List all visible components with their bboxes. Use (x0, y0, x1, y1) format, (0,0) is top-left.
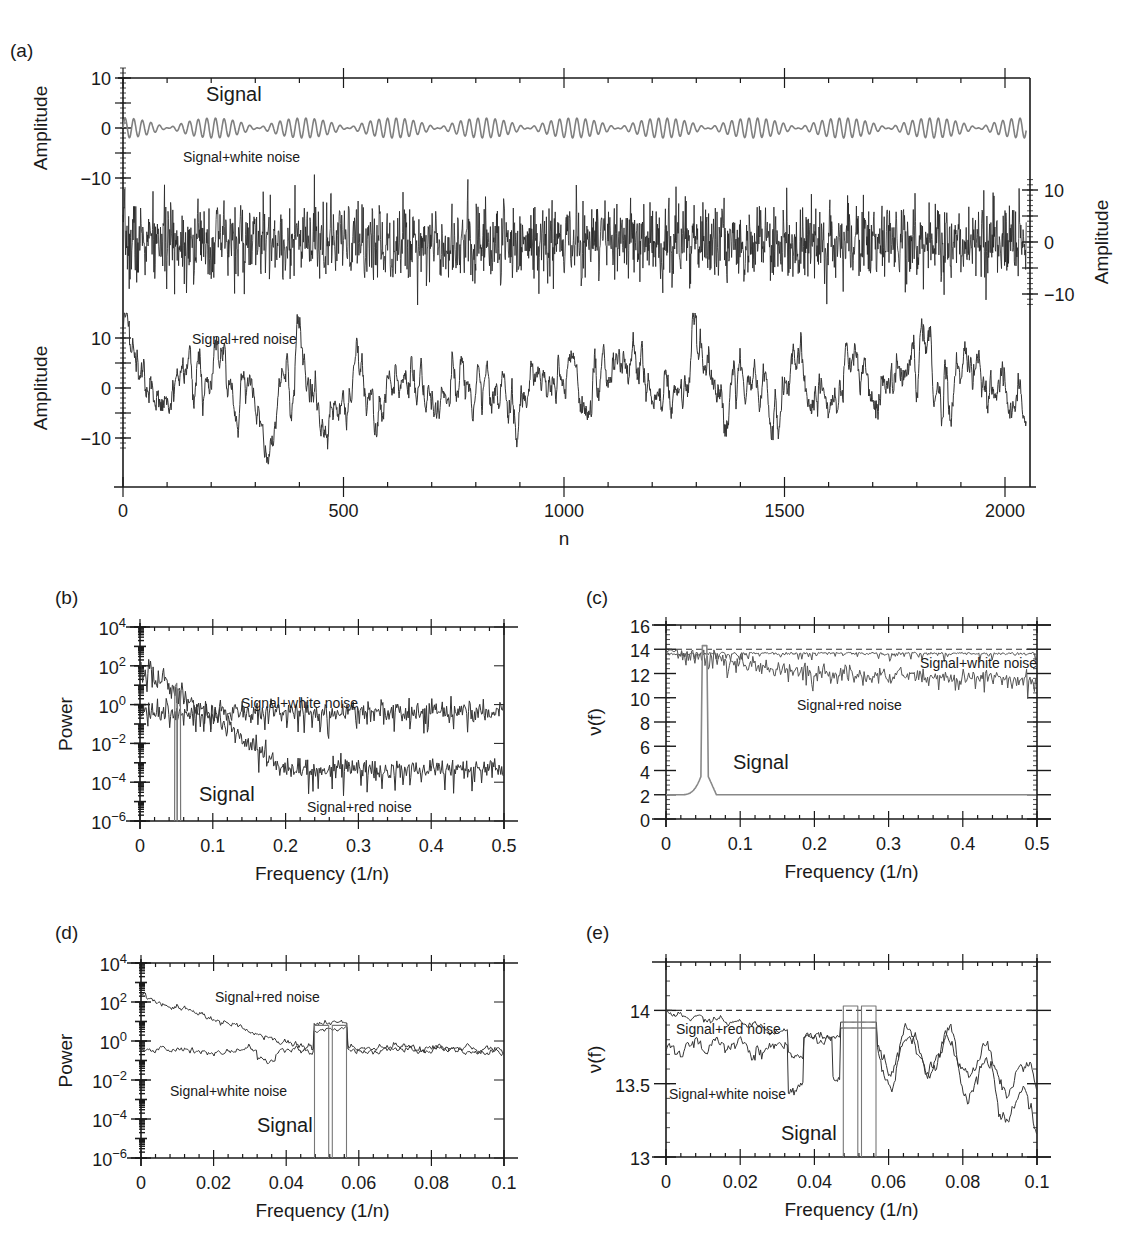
x-tick-label: 0 (118, 501, 128, 521)
signal-white-noise-nu (666, 1023, 1037, 1134)
y-tick-label: 13.5 (615, 1076, 650, 1096)
x-axis-title: n (559, 528, 570, 549)
y-tick-label: 0 (101, 119, 111, 139)
x-tick-label: 0.2 (273, 836, 298, 856)
y-axis-title: Power (55, 1033, 76, 1088)
annotation-signal-red-noise: Signal+red noise (307, 799, 412, 815)
panel-b-label: (b) (55, 587, 78, 608)
panel-c-nu-spectrum: (c)00.10.20.30.40.5Frequency (1/n)024681… (584, 587, 1051, 882)
y-tick-label: 8 (640, 714, 650, 734)
signal-band-1 (315, 1025, 329, 1158)
y-tick-label: 14 (630, 641, 650, 661)
signal-red-noise-spectrum (140, 659, 503, 795)
annotation-signal: Signal (257, 1114, 313, 1136)
y-tick-label: 0 (640, 811, 650, 831)
x-tick-label: 0 (661, 834, 671, 854)
y-tick-label: 13 (630, 1149, 650, 1169)
panel-b-power-spectrum: (b)00.10.20.30.40.5Frequency (1/n)104102… (55, 587, 518, 884)
y-tick-label: 102 (100, 990, 127, 1014)
y-tick-label: 104 (100, 951, 127, 975)
y-tick-label: 16 (630, 617, 650, 637)
annotation-signal-red-noise: Signal+red noise (215, 989, 320, 1005)
y-axis-title: Power (55, 696, 76, 751)
y-tick-label: 100 (100, 1029, 127, 1053)
annotation-signal: Signal (733, 751, 789, 773)
y-tick-label: −10 (80, 429, 111, 449)
x-tick-label: 0.5 (1024, 834, 1049, 854)
x-tick-label: 0.06 (871, 1172, 906, 1192)
x-tick-label: 0.08 (945, 1172, 980, 1192)
annotation-signal-white-noise: Signal+white noise (241, 695, 358, 711)
x-tick-label: 1000 (544, 501, 584, 521)
annotation-signal-red-noise: Signal+red noise (676, 1021, 781, 1037)
annotation-signal-white-noise: Signal+white noise (669, 1086, 786, 1102)
x-tick-label: 1500 (764, 501, 804, 521)
y-tick-label: 10−2 (91, 731, 126, 755)
annotation-signal: Signal (781, 1122, 837, 1144)
y-tick-label: 10 (91, 69, 111, 89)
y-tick-label: 10 (91, 329, 111, 349)
y-axis-title: ν(f) (584, 1046, 605, 1073)
x-tick-label: 0.02 (723, 1172, 758, 1192)
y-axis-title-left-bottom: Amplitude (30, 346, 51, 431)
annotation-signal-white-noise: Signal+white noise (920, 655, 1037, 671)
x-axis-title: Frequency (1/n) (255, 1200, 389, 1221)
panel-a-label: (a) (10, 40, 33, 61)
panel-e-nu-spectrum-zoom: (e)00.020.040.060.080.1Frequency (1/n)13… (584, 922, 1051, 1220)
signal-white-noise-spectrum (141, 1027, 504, 1064)
panel-d-power-spectrum-zoom: (d)00.020.040.060.080.1Frequency (1/n)10… (55, 922, 518, 1221)
x-tick-label: 0.4 (419, 836, 444, 856)
x-tick-label: 0 (661, 1172, 671, 1192)
y-axis-title-left-top: Amplitude (30, 86, 51, 171)
y-tick-label: 100 (99, 693, 126, 717)
x-tick-label: 500 (328, 501, 358, 521)
x-tick-label: 2000 (985, 501, 1025, 521)
y-tick-label: 0 (101, 379, 111, 399)
y-tick-label: 4 (640, 763, 650, 783)
y-tick-label: 14 (630, 1002, 650, 1022)
annotation-signal-white-noise: Signal+white noise (170, 1083, 287, 1099)
signal-band-2 (862, 1006, 877, 1157)
x-tick-label: 0.5 (491, 836, 516, 856)
y-tick-label: 0 (1044, 233, 1054, 253)
x-axis-title: Frequency (1/n) (784, 1199, 918, 1220)
x-tick-label: 0.4 (950, 834, 975, 854)
x-tick-label: 0.02 (196, 1173, 231, 1193)
y-tick-label: 10−4 (92, 1107, 127, 1131)
x-tick-label: 0.3 (876, 834, 901, 854)
x-tick-label: 0.3 (346, 836, 371, 856)
x-tick-label: 0.1 (1024, 1172, 1049, 1192)
signal-band-2 (332, 1025, 346, 1158)
y-tick-label: 6 (640, 738, 650, 758)
panel-e-label: (e) (586, 922, 609, 943)
annotation-signal: Signal (199, 783, 255, 805)
y-tick-label: 2 (640, 787, 650, 807)
x-tick-label: 0.06 (341, 1173, 376, 1193)
x-tick-label: 0.04 (797, 1172, 832, 1192)
signal-white-noise-trace (123, 175, 1026, 305)
annotation-signal-white-noise: Signal+white noise (183, 149, 300, 165)
figure: (a)0500100015002000n100−10100−10100−10Am… (0, 0, 1134, 1245)
annotation-signal: Signal (206, 83, 262, 105)
y-tick-label: −10 (1044, 285, 1075, 305)
signal-red-noise-spectrum (141, 992, 504, 1054)
x-tick-label: 0 (135, 836, 145, 856)
y-tick-label: 10−6 (92, 1146, 127, 1170)
y-tick-label: 10 (630, 690, 650, 710)
x-tick-label: 0.1 (200, 836, 225, 856)
x-tick-label: 0.1 (491, 1173, 516, 1193)
x-tick-label: 0.08 (414, 1173, 449, 1193)
signal-trace (123, 118, 1026, 138)
y-tick-label: 10 (1044, 181, 1064, 201)
y-axis-title: ν(f) (584, 708, 605, 735)
annotation-signal-red-noise: Signal+red noise (797, 697, 902, 713)
y-tick-label: 10−4 (91, 770, 126, 794)
x-axis-title: Frequency (1/n) (255, 863, 389, 884)
panel-d-label: (d) (55, 922, 78, 943)
y-tick-label: −10 (80, 169, 111, 189)
x-tick-label: 0.2 (802, 834, 827, 854)
panel-a-time-series: (a)0500100015002000n100−10100−10100−10Am… (10, 40, 1112, 549)
y-tick-label: 10−2 (92, 1068, 127, 1092)
y-axis-title-right: Amplitude (1091, 200, 1112, 285)
panel-c-label: (c) (586, 587, 608, 608)
